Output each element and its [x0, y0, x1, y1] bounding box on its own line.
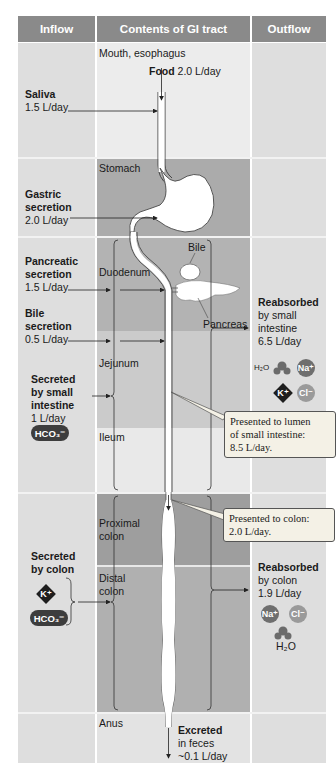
gallbladder-shape: [180, 264, 200, 280]
water-molecule-icon: [274, 626, 292, 640]
colon-inflow: Secretedby colon: [31, 550, 75, 576]
bicarbonate-ion-badge: HCO₃⁻: [31, 425, 69, 441]
chloride-ion-icon: Cl⁻: [289, 605, 307, 623]
chloride-ion-icon: Cl⁻: [297, 384, 315, 402]
water-label: H₂O: [276, 640, 296, 653]
label-bile-organ: Bile: [188, 241, 206, 254]
bicarbonate-ion-badge: HCO₃⁻: [30, 610, 68, 626]
gastric-inflow: Gastricsecretion2.0 L/day: [25, 188, 72, 227]
excreted-outflow: Excreted in feces ~0.1 L/day: [178, 724, 227, 763]
callout-colon: Presented to colon: 2.0 L/day.: [223, 508, 335, 542]
potassium-ion-label: K⁺: [273, 388, 293, 398]
small-intestine-inflow: Secretedby smallintestine1 L/day: [31, 373, 75, 425]
sodium-ion-icon: Na⁺: [261, 605, 279, 623]
colon-outflow: Reabsorbed by colon 1.9 L/day: [258, 561, 319, 600]
food-inflow: Food 2.0 L/day: [149, 65, 221, 78]
sodium-ion-icon: Na⁺: [297, 359, 315, 377]
pancreatic-inflow: Pancreaticsecretion1.5 L/day: [25, 255, 78, 294]
potassium-ion-label: K⁺: [36, 589, 56, 599]
label-pancreas: Pancreas: [203, 318, 247, 331]
water-label: H₂O: [254, 361, 269, 374]
pancreas-shape: [176, 281, 240, 302]
bile-inflow: Bilesecretion0.5 L/day: [25, 307, 72, 346]
callout-small-intestine: Presented to lumen of small intestine: 8…: [224, 411, 336, 458]
small-intestine-outflow: Reabsorbed by small intestine 6.5 L/day: [258, 296, 319, 348]
water-molecule-icon: [273, 361, 291, 375]
saliva-inflow: Saliva1.5 L/day: [25, 88, 68, 114]
